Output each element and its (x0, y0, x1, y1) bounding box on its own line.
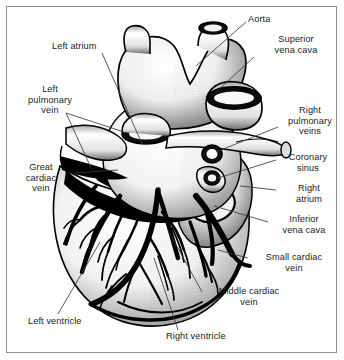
label-left-ventricle: Left ventricle (28, 316, 118, 327)
superior-vena-cava-vessel (206, 82, 262, 130)
label-small-cardiac-vein: Small cardiac vein (248, 252, 340, 273)
label-aorta: Aorta (248, 14, 318, 25)
left-pulmonary-vein-vessel (122, 114, 170, 144)
label-right-ventricle: Right ventricle (166, 331, 260, 342)
label-left-atrium: Left atrium (52, 41, 128, 52)
label-superior-vena-cava: Superior vena cava (256, 34, 336, 55)
label-right-pulmonary-veins: Right pulmonary veins (280, 105, 340, 137)
heart-anatomy-figure: Aorta Superior vena cava Left atrium Lef… (0, 0, 344, 360)
label-coronary-sinus: Coronary sinus (276, 152, 340, 173)
label-right-atrium: Right atrium (280, 183, 338, 204)
label-middle-cardiac-vein: Middle cardiac vein (202, 286, 296, 307)
label-inferior-vena-cava: Inferior vena cava (268, 214, 340, 235)
label-left-pulmonary-vein: Left pulmonary vein (14, 84, 86, 116)
label-great-cardiac-vein: Great cardiac vein (10, 162, 72, 194)
